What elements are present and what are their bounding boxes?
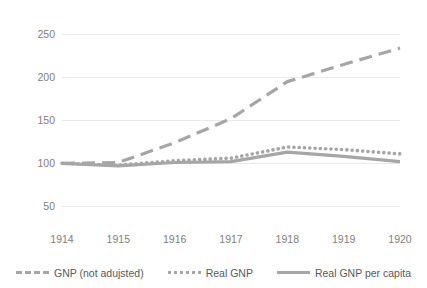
series-line xyxy=(62,48,400,163)
legend-label: GNP (not adujsted) xyxy=(54,268,144,279)
y-axis-tick-label: 150 xyxy=(9,115,55,126)
chart-legend: GNP (not adujsted)Real GNPReal GNP per c… xyxy=(0,264,427,282)
legend-label: Real GNP xyxy=(206,268,253,279)
x-axis-tick-label: 1919 xyxy=(316,234,372,245)
x-axis-tick-label: 1918 xyxy=(259,234,315,245)
y-axis-tick-label: 50 xyxy=(9,201,55,212)
legend-item[interactable]: Real GNP per capita xyxy=(277,268,411,279)
legend-item[interactable]: GNP (not adujsted) xyxy=(16,268,144,279)
plot-area xyxy=(62,24,400,227)
legend-item[interactable]: Real GNP xyxy=(168,268,253,279)
legend-swatch-icon xyxy=(277,271,310,275)
y-axis: 50100150200250 xyxy=(0,24,55,227)
line-chart: 50100150200250 1914191519161917191819191… xyxy=(0,0,427,288)
y-axis-tick-label: 250 xyxy=(9,29,55,40)
series-lines xyxy=(62,24,400,227)
x-axis-tick-label: 1916 xyxy=(147,234,203,245)
x-axis-tick-label: 1920 xyxy=(372,234,427,245)
y-axis-tick-label: 200 xyxy=(9,72,55,83)
x-axis: 1914191519161917191819191920 xyxy=(62,234,400,250)
x-axis-tick-label: 1914 xyxy=(34,234,90,245)
x-axis-tick-label: 1915 xyxy=(90,234,146,245)
x-axis-tick-label: 1917 xyxy=(203,234,259,245)
y-axis-tick-label: 100 xyxy=(9,158,55,169)
legend-swatch-icon xyxy=(16,271,49,275)
legend-label: Real GNP per capita xyxy=(315,268,411,279)
legend-swatch-icon xyxy=(168,271,201,275)
